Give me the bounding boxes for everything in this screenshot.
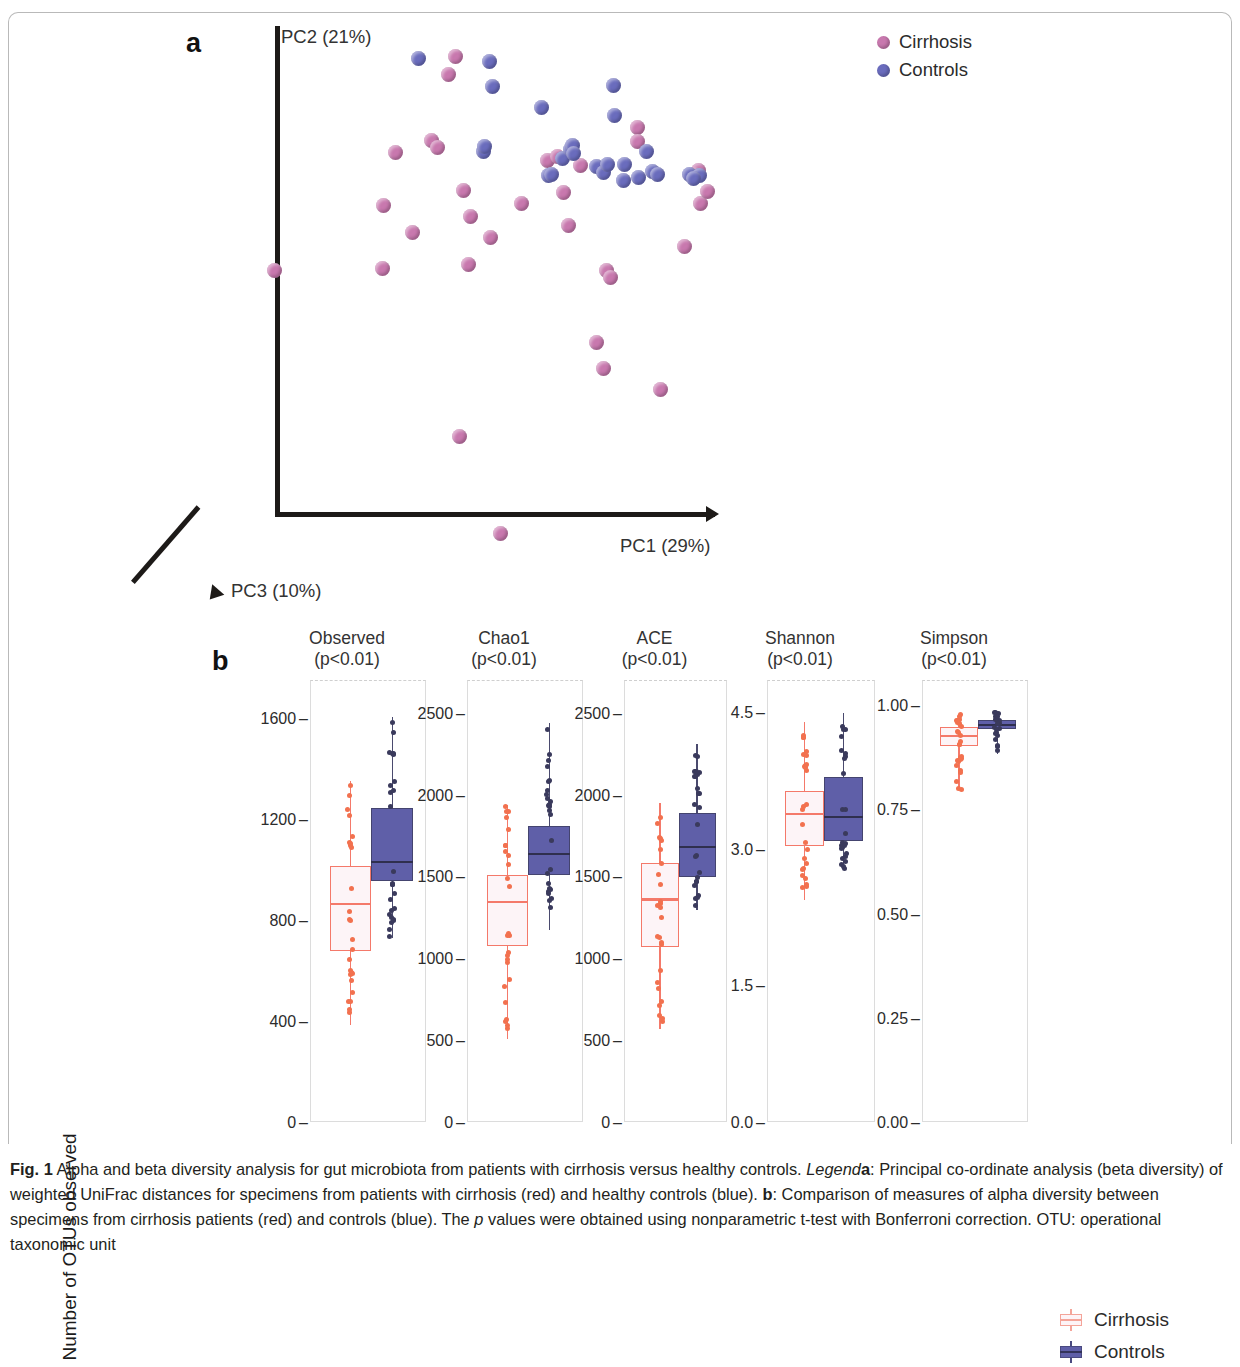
plot-area-chao1: 05001000150020002500 (467, 680, 583, 1122)
pcoa-point-cirrhosis (493, 526, 508, 541)
subplot-title-ace: ACE(p<0.01) (582, 628, 727, 670)
pc3-axis-label: PC3 (10%) (231, 580, 321, 602)
caption-legend-word: Legend (806, 1160, 861, 1178)
pcoa-point-controls (607, 108, 622, 123)
pcoa-point-controls (606, 78, 621, 93)
jitter-point (349, 886, 354, 891)
plot-area-observed: 040080012001600 (310, 680, 426, 1122)
y-tick-label: 0.75 (877, 801, 923, 819)
jitter-point (506, 827, 511, 832)
jitter-point (547, 898, 552, 903)
subplot-pvalue-simpson: (p<0.01) (921, 649, 987, 669)
y-tick-label: 0.0 (731, 1114, 768, 1132)
pcoa-point-cirrhosis (405, 225, 420, 240)
jitter-point (391, 788, 396, 793)
plot-area-shannon: 0.01.53.04.5 (767, 680, 875, 1122)
y-tick-label: 1000 (575, 950, 626, 968)
subplot-title-shannon: Shannon(p<0.01) (725, 628, 875, 670)
jitter-point (805, 847, 810, 852)
pcoa-point-cirrhosis (430, 140, 445, 155)
median-line (824, 816, 863, 818)
subplot-title-simpson: Simpson(p<0.01) (880, 628, 1028, 670)
pcoa-point-cirrhosis (441, 67, 456, 82)
pcoa-point-cirrhosis (375, 261, 390, 276)
pcoa-point-cirrhosis (677, 239, 692, 254)
jitter-point (658, 815, 663, 820)
jitter-point (349, 978, 354, 983)
jitter-point (803, 876, 808, 881)
y-tick-label: 2000 (575, 787, 626, 805)
jitter-point (545, 764, 550, 769)
jitter-point (800, 867, 805, 872)
jitter-point (545, 788, 550, 793)
legend-label-controls-box: Controls (1094, 1341, 1165, 1363)
y-tick-label: 3.0 (731, 841, 768, 859)
pcoa-point-cirrhosis (596, 361, 611, 376)
caption-line-1: Alpha and beta diversity analysis for gu… (53, 1160, 806, 1178)
pcoa-point-cirrhosis (589, 335, 604, 350)
y-tick-label: 0.00 (877, 1114, 923, 1132)
jitter-point (347, 793, 352, 798)
jitter-point (506, 862, 511, 867)
controls-dot-icon (877, 64, 890, 77)
pcoa-point-controls (686, 171, 701, 186)
pcoa-point-cirrhosis (561, 218, 576, 233)
y-tick-label: 1.00 (877, 697, 923, 715)
jitter-point (696, 791, 701, 796)
pc3-axis-line (131, 505, 200, 584)
pcoa-point-controls (600, 157, 615, 172)
median-line (487, 901, 529, 903)
jitter-point (842, 756, 847, 761)
jitter-point (350, 990, 355, 995)
boxplot-simpson-cirrhosis (940, 679, 978, 1121)
jitter-point (804, 861, 809, 866)
jitter-point (347, 813, 352, 818)
y-tick-label: 400 (269, 1013, 311, 1031)
jitter-point (350, 947, 355, 952)
jitter-point (505, 933, 510, 938)
jitter-point (995, 748, 1000, 753)
y-tick-label: 500 (583, 1032, 625, 1050)
boxplot-subplot-shannon: Shannon(p<0.01)0.01.53.04.5 (725, 628, 875, 1128)
jitter-point (547, 802, 552, 807)
boxplot-subplot-ace: ACE(p<0.01)05001000150020002500 (582, 628, 727, 1128)
pcoa-point-cirrhosis (700, 184, 715, 199)
subplot-pvalue-ace: (p<0.01) (622, 649, 688, 669)
boxplot-chao1-controls (528, 679, 570, 1121)
panel-a-letter: a (186, 28, 201, 59)
pcoa-point-cirrhosis (514, 196, 529, 211)
y-tick-label: 0 (601, 1114, 625, 1132)
pc3-axis-arrow-icon (204, 584, 225, 604)
y-tick-label: 1500 (418, 868, 469, 886)
y-tick-label: 4.5 (731, 704, 768, 722)
jitter-point (995, 714, 1000, 719)
pcoa-point-cirrhosis (630, 120, 645, 135)
y-tick-label: 0.25 (877, 1010, 923, 1028)
legend-label-cirrhosis: Cirrhosis (899, 31, 972, 53)
boxplot-subplot-observed: Observed(p<0.01)040080012001600 (268, 628, 426, 1128)
pcoa-point-controls (566, 146, 581, 161)
jitter-point (804, 753, 809, 758)
jitter-point (549, 838, 554, 843)
jitter-point (839, 846, 844, 851)
median-line (528, 853, 570, 855)
subplot-title-chao1: Chao1(p<0.01) (425, 628, 583, 670)
subplot-pvalue-shannon: (p<0.01) (767, 649, 833, 669)
pcoa-point-controls (485, 79, 500, 94)
legend-label-controls: Controls (899, 59, 968, 81)
jitter-point (548, 867, 553, 872)
jitter-point (548, 905, 553, 910)
pcoa-point-cirrhosis (556, 185, 571, 200)
jitter-point (347, 957, 352, 962)
boxplot-shannon-controls (824, 679, 863, 1121)
boxplot-subplot-simpson: Simpson(p<0.01)0.000.250.500.751.00 (880, 628, 1028, 1128)
cirrhosis-dot-icon (877, 36, 890, 49)
jitter-point (350, 937, 355, 942)
panel-b-alpha-diversity-boxplots: b Number of OTUs observed Observed(p<0.0… (0, 628, 1240, 1148)
legend-item-cirrhosis-box: Cirrhosis (1058, 1304, 1169, 1336)
jitter-point (504, 815, 509, 820)
jitter-point (506, 809, 511, 814)
median-line (371, 861, 413, 863)
legend-label-cirrhosis-box: Cirrhosis (1094, 1309, 1169, 1331)
boxplot-subplot-chao1: Chao1(p<0.01)05001000150020002500 (425, 628, 583, 1128)
